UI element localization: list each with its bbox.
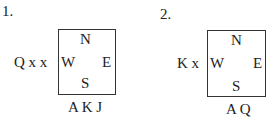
north-label: N <box>231 32 242 49</box>
diagram-number: 2. <box>160 6 171 23</box>
east-label: E <box>253 55 262 72</box>
west-hand: Q x x <box>14 54 47 71</box>
south-hand: A K J <box>68 99 102 116</box>
west-label: W <box>210 55 224 72</box>
north-label: N <box>80 31 91 48</box>
west-hand: K x <box>177 55 199 72</box>
west-label: W <box>61 54 75 71</box>
south-label: S <box>81 75 89 92</box>
diagram-number: 1. <box>2 3 13 20</box>
east-label: E <box>102 54 111 71</box>
south-label: S <box>232 78 240 95</box>
south-hand: A Q <box>226 101 251 118</box>
